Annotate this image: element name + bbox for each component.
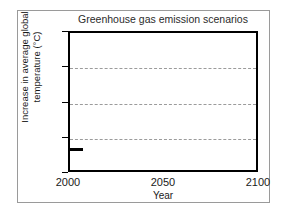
gridline-y-3 xyxy=(70,104,256,105)
gridlines xyxy=(70,33,256,170)
x-tick-label-2000: 2000 xyxy=(45,176,91,188)
x-tick-label-2100: 2100 xyxy=(235,176,281,188)
gridline-y-4 xyxy=(70,68,256,69)
plot-area xyxy=(68,31,258,172)
x-axis-title: Year xyxy=(68,190,258,202)
x-tick-label-2050: 2050 xyxy=(140,176,186,188)
y-axis-title: Increase in average global temperature (… xyxy=(19,0,43,142)
gridline-y-2 xyxy=(70,139,256,140)
y-axis-title-line-1: Increase in average global xyxy=(19,0,31,142)
data-series-layer xyxy=(70,33,256,170)
y-axis-title-line-2: temperature (°C) xyxy=(31,0,43,142)
data-line-series-0 xyxy=(70,148,83,151)
chart-title: Greenhouse gas emission scenarios xyxy=(68,13,258,26)
